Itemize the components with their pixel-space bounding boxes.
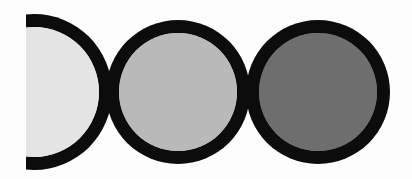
grayscale-circles-diagram [0,0,412,179]
circle-inner-medium [119,33,237,151]
circle-inner-dark [259,33,377,151]
